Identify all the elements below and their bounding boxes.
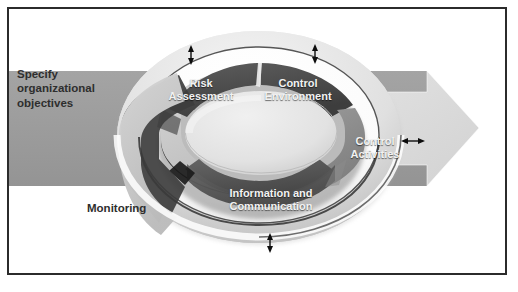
diagram-canvas: Specify organizational objectives Risk A… <box>0 0 518 292</box>
diagram-graphics <box>9 9 505 273</box>
ring-inner-hub <box>185 91 337 175</box>
cycle-diagram-svg <box>9 9 505 273</box>
diagram-frame: Specify organizational objectives Risk A… <box>7 7 507 275</box>
